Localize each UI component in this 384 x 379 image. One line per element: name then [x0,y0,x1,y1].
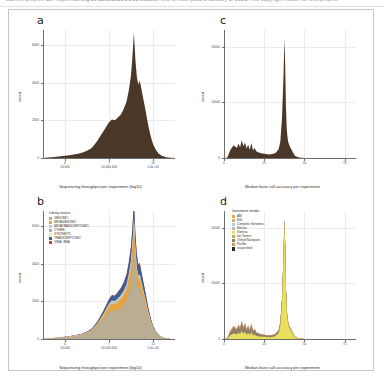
series-area [224,38,353,158]
y-axis-tick [222,47,224,48]
y-axis-tick-label: 20000 [192,226,220,230]
y-axis-line [43,211,44,339]
preprint-banner-strip: bioRxiv preprint doi: https://doi.org/10… [0,0,384,7]
panel-b-legend-items: GENOMICMETAGENOMICMETATRANSCRIPTOMICOTHE… [49,216,89,244]
panel-c-label: c [220,14,226,27]
panel-c: c Median base call accuracy per experime… [192,10,373,191]
y-axis-tick-label: 2000 [9,299,39,303]
x-axis-tick-label: 710,000,000 [101,161,117,169]
y-axis-tick [41,301,43,302]
y-axis-tick-label: 0 [192,156,220,160]
y-axis-tick [41,45,43,46]
x-axis-tick-label: 0 [223,342,225,346]
panel-b-legend: Library source GENOMICMETAGENOMICMETATRA… [49,211,89,245]
panel-c-data-layer [224,30,356,158]
legend-item: VIRAL RNA [49,241,89,245]
y-axis-tick-label: 4000 [9,81,39,85]
x-axis-tick-label: 75 [343,342,347,346]
y-axis-tick [222,228,224,229]
legend-label: VIRAL RNA [54,241,70,244]
y-axis-tick-label: 2000 [9,118,39,122]
legend-swatch [232,231,235,234]
banner-divider [0,6,384,7]
panel-d-legend-title: Instrument vendor [232,209,264,213]
legend-swatch [232,247,235,250]
panel-a-y-title: count [17,92,22,102]
x-axis-tick-label: 101.0e+10 [147,161,159,169]
legend-swatch [232,227,235,230]
panel-d-legend: Instrument vendor ABIBGIComplete Genomic… [232,209,264,251]
x-axis-tick-label: 410,000 [60,342,70,350]
panel-a-label: a [37,14,44,27]
panel-d: d Instrument vendor ABIBGIComplete Genom… [192,191,373,372]
legend-swatch [232,239,235,242]
legend-swatch [232,223,235,226]
x-axis-line [224,158,356,159]
y-axis-tick [222,158,224,159]
x-axis-tick-label: 410,000 [60,161,70,169]
legend-swatch [232,235,235,238]
series-area [43,242,175,339]
x-axis-line [224,339,356,340]
y-axis-tick [41,120,43,121]
legend-swatch [49,233,52,236]
panel-c-plot-area [224,30,356,158]
y-axis-tick-label: 10000 [192,281,220,285]
y-axis-tick [41,83,43,84]
legend-swatch [49,229,52,232]
legend-swatch [232,219,235,222]
x-axis-tick-label: 50 [303,161,307,165]
x-axis-tick-label: 25 [262,342,266,346]
y-axis-tick [41,158,43,159]
y-axis-tick [41,264,43,265]
panel-d-label: d [220,195,227,208]
panel-d-x-title: Median base call accuracy per experiment [192,365,373,370]
legend-swatch [232,215,235,218]
y-axis-tick [41,226,43,227]
y-axis-tick-label: 0 [9,156,39,160]
x-axis-tick-label: 75 [343,161,347,165]
y-axis-line [224,30,225,158]
panel-d-legend-items: ABIBGIComplete GenomicsHelicosIlluminaIo… [232,214,264,250]
y-axis-line [224,211,225,339]
y-axis-tick [222,339,224,340]
y-axis-tick-label: 4000 [9,262,39,266]
x-axis-tick-label: 0 [223,161,225,165]
series-area [43,33,175,158]
panel-b-label: b [37,195,44,208]
y-axis-tick-label: 20000 [192,45,220,49]
y-axis-tick-label: 6000 [9,43,39,47]
legend-swatch [49,221,52,224]
figure-frame: a Sequencing throughput per experiment (… [8,9,374,371]
y-axis-tick-label: 6000 [9,224,39,228]
legend-swatch [232,243,235,246]
y-axis-tick-label: 10000 [192,100,220,104]
legend-swatch [49,241,52,244]
x-axis-tick-label: 101.0e+10 [147,342,159,350]
preprint-banner-text: bioRxiv preprint doi: https://doi.org/10… [6,0,338,2]
y-axis-tick [222,102,224,103]
panel-a-x-title: Sequencing throughput per experiment (lo… [9,184,192,189]
legend-item: unspecified [232,247,264,251]
y-axis-tick [222,283,224,284]
panel-b-x-title: Sequencing throughput per experiment (lo… [9,365,192,370]
panel-a-data-layer [43,30,175,158]
panel-b-y-title: count [17,273,22,283]
legend-label: unspecified [237,247,252,250]
x-axis-tick-label: 710,000,000 [101,342,117,350]
y-axis-tick-label: 0 [192,337,220,341]
y-axis-tick-label: 0 [9,337,39,341]
panel-a: a Sequencing throughput per experiment (… [9,10,192,191]
legend-swatch [49,217,52,220]
x-axis-tick-label: 50 [303,342,307,346]
y-axis-tick [41,339,43,340]
panel-a-plot-area [43,30,175,158]
x-axis-tick-label: 25 [262,161,266,165]
y-axis-line [43,30,44,158]
panel-b-legend-title: Library source [49,211,89,215]
legend-swatch [49,237,52,240]
legend-swatch [49,225,52,228]
panel-c-x-title: Median base call accuracy per experiment [192,184,373,189]
panel-b: b Library source GENOMICMETAGENOMICMETAT… [9,191,192,372]
